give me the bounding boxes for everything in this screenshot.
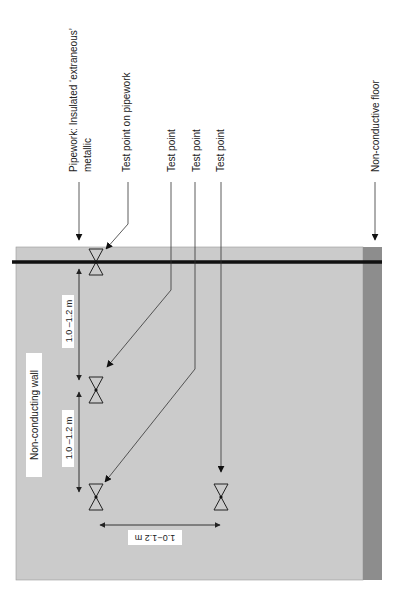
test-point-1-label: Test point bbox=[166, 129, 177, 172]
vertical-dimension-lower-label: 1.0 –1.2 m bbox=[64, 417, 74, 460]
pipework-label-line2: metallic bbox=[82, 138, 93, 172]
pipework-label-line1: Pipework: Insulated ‘extraneous’ bbox=[68, 28, 79, 172]
test-point-2-label: Test point bbox=[191, 129, 202, 172]
non-conducting-wall-label: Non-conducting wall bbox=[29, 370, 40, 460]
test-point-3-label: Test point bbox=[215, 129, 226, 172]
horizontal-dimension-label: 1.0−1.2 m bbox=[135, 533, 175, 543]
test-point-on-pipework-label: Test point on pipework bbox=[121, 71, 132, 172]
vertical-dimension-upper-label: 1.0 –1.2 m bbox=[64, 300, 74, 343]
non-conductive-floor bbox=[363, 247, 382, 580]
non-conductive-floor-label: Non-conductive floor bbox=[370, 80, 381, 172]
earth-free-location-diagram: Pipework: Insulated ‘extraneous’ metalli… bbox=[0, 0, 394, 597]
test-point-on-pipework-leader bbox=[106, 182, 128, 249]
